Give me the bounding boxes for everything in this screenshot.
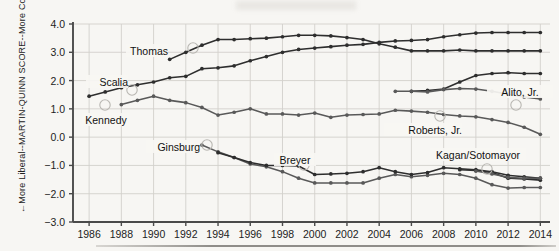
data-point xyxy=(281,35,285,39)
x-tick-labels: 1986198819901992199419961998200020022004… xyxy=(77,222,552,240)
callout-label-alito: Alito, Jr. xyxy=(501,86,538,98)
data-point xyxy=(426,110,430,114)
data-point xyxy=(410,89,414,93)
data-point xyxy=(345,36,349,40)
data-point xyxy=(297,33,301,37)
callout-label-kagan: Kagan/Sotomayor xyxy=(436,149,521,161)
data-point xyxy=(410,109,414,113)
data-point xyxy=(265,55,269,59)
data-point xyxy=(329,115,333,119)
data-point xyxy=(474,176,478,180)
data-point xyxy=(297,48,301,52)
data-point xyxy=(490,72,494,76)
data-point xyxy=(506,49,510,53)
data-point xyxy=(232,110,236,114)
data-point xyxy=(458,168,462,172)
data-point xyxy=(281,50,285,54)
data-point xyxy=(458,80,462,84)
data-point xyxy=(442,49,446,53)
data-point xyxy=(265,164,269,168)
data-point xyxy=(538,72,542,76)
data-point xyxy=(184,101,188,105)
data-point xyxy=(248,37,252,41)
data-point xyxy=(426,171,430,175)
data-point xyxy=(248,161,252,165)
page-rule xyxy=(96,245,556,247)
svg-text:1998: 1998 xyxy=(271,228,295,240)
data-point xyxy=(361,113,365,117)
svg-text:−2.0: −2.0 xyxy=(44,188,65,200)
svg-text:−3.0: −3.0 xyxy=(44,216,65,228)
data-point xyxy=(442,171,446,175)
data-point xyxy=(410,39,414,43)
data-point xyxy=(248,107,252,111)
data-point xyxy=(538,49,542,53)
data-point xyxy=(442,35,446,39)
data-point xyxy=(506,71,510,75)
data-point xyxy=(297,113,301,117)
data-point xyxy=(168,76,172,80)
svg-text:2010: 2010 xyxy=(464,228,488,240)
data-point xyxy=(345,113,349,117)
martin-quinn-chart: ←More Liberal--MARTIN-QUINN SCORE--More … xyxy=(0,0,559,251)
callout-label-breyer: Breyer xyxy=(280,154,311,166)
callout-label-scalia: Scalia xyxy=(99,76,128,88)
data-point xyxy=(265,36,269,40)
svg-text:0.0: 0.0 xyxy=(50,131,65,143)
data-point xyxy=(168,99,172,103)
svg-text:2004: 2004 xyxy=(368,228,392,240)
data-point xyxy=(281,170,285,174)
svg-text:2008: 2008 xyxy=(432,228,456,240)
data-point xyxy=(474,169,478,173)
svg-text:1994: 1994 xyxy=(206,228,230,240)
data-point xyxy=(232,156,236,160)
svg-text:1990: 1990 xyxy=(142,228,166,240)
data-point xyxy=(393,89,397,93)
data-point xyxy=(393,39,397,43)
data-point xyxy=(377,41,381,45)
data-point xyxy=(474,115,478,119)
callout-label-ginsburg: Ginsburg xyxy=(157,141,200,153)
callout-label-kennedy: Kennedy xyxy=(85,114,127,126)
data-point xyxy=(538,31,542,35)
data-point xyxy=(506,186,510,190)
data-point xyxy=(361,38,365,42)
callout-label-roberts: Roberts, Jr. xyxy=(408,124,462,136)
data-point xyxy=(168,58,172,62)
svg-text:2006: 2006 xyxy=(400,228,424,240)
data-point xyxy=(442,88,446,92)
svg-text:3.0: 3.0 xyxy=(50,46,65,58)
svg-text:1.0: 1.0 xyxy=(50,103,65,115)
data-point xyxy=(538,186,542,190)
data-point xyxy=(458,48,462,52)
data-point xyxy=(313,181,317,185)
data-point xyxy=(329,181,333,185)
data-point xyxy=(297,176,301,180)
data-point xyxy=(410,173,414,177)
data-point xyxy=(458,173,462,177)
data-point xyxy=(329,172,333,176)
data-point xyxy=(458,33,462,37)
data-point xyxy=(361,181,365,185)
data-point xyxy=(313,111,317,115)
svg-text:1988: 1988 xyxy=(110,228,134,240)
data-point xyxy=(490,118,494,122)
data-point xyxy=(152,80,156,84)
data-point xyxy=(216,66,220,70)
data-point xyxy=(216,151,220,155)
data-point xyxy=(506,31,510,35)
data-point xyxy=(522,72,526,76)
data-point xyxy=(184,50,188,54)
data-point xyxy=(490,49,494,53)
data-point xyxy=(200,106,204,110)
data-point xyxy=(442,166,446,170)
data-point xyxy=(216,38,220,42)
data-point xyxy=(329,34,333,38)
data-point xyxy=(361,170,365,174)
data-point xyxy=(522,49,526,53)
data-point xyxy=(103,90,107,94)
data-point xyxy=(281,112,285,116)
data-point xyxy=(522,125,526,129)
data-point xyxy=(248,59,252,63)
data-point xyxy=(136,99,140,103)
